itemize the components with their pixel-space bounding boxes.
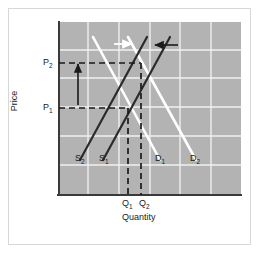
curve-label-s1: S1 — [99, 154, 109, 165]
curve-label-d2: D2 — [190, 154, 200, 165]
y-tick-p2: P2 — [43, 58, 53, 69]
curve-label-s2: S2 — [75, 154, 85, 165]
curve-label-d1: D1 — [155, 154, 165, 165]
x-tick-q1: Q1 — [122, 199, 133, 210]
x-axis-label: Quantity — [122, 213, 156, 222]
x-tick-q2: Q2 — [139, 199, 150, 210]
y-tick-p1: P1 — [43, 103, 53, 114]
y-axis-label: Price — [9, 78, 19, 124]
